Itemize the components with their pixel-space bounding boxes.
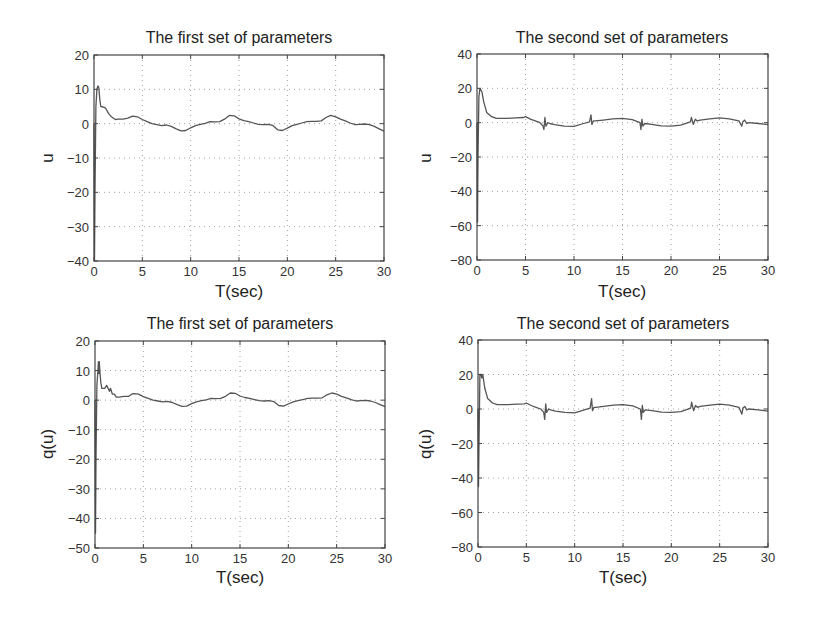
y-tick-label: 20 bbox=[75, 48, 89, 63]
data-series-line bbox=[477, 88, 768, 222]
y-tick-label: −80 bbox=[450, 253, 472, 268]
x-tick-label: 10 bbox=[567, 263, 581, 278]
y-tick-label: −40 bbox=[451, 471, 473, 486]
y-tick-label: −20 bbox=[68, 452, 90, 467]
y-tick-label: −40 bbox=[450, 184, 472, 199]
x-tick-label: 0 bbox=[90, 264, 97, 279]
x-tick-label: 25 bbox=[329, 551, 343, 566]
y-tick-label: −10 bbox=[67, 151, 89, 166]
x-tick-label: 15 bbox=[233, 551, 247, 566]
x-tick-label: 20 bbox=[280, 264, 294, 279]
x-tick-label: 0 bbox=[474, 550, 481, 565]
y-tick-label: −60 bbox=[450, 219, 472, 234]
plot-axes: 051015202530−50−40−30−20−1001020 bbox=[68, 334, 392, 566]
y-axis-label: q(u) bbox=[38, 429, 57, 459]
y-axis-label: q(u) bbox=[416, 429, 435, 459]
x-tick-label: 10 bbox=[183, 264, 197, 279]
y-tick-label: 0 bbox=[465, 116, 472, 131]
x-tick-label: 0 bbox=[91, 551, 98, 566]
x-tick-label: 15 bbox=[616, 550, 630, 565]
x-tick-label: 5 bbox=[522, 263, 529, 278]
y-axis-label: u bbox=[416, 153, 435, 162]
x-axis-label: T(sec) bbox=[599, 568, 647, 587]
subplot-title: The second set of parameters bbox=[516, 29, 729, 46]
plot-axes: 051015202530−80−60−40−2002040 bbox=[451, 333, 775, 565]
subplot-title: The second set of parameters bbox=[517, 315, 730, 332]
y-tick-label: −40 bbox=[68, 511, 90, 526]
x-tick-label: 10 bbox=[567, 550, 581, 565]
y-tick-label: 10 bbox=[76, 364, 90, 379]
subplot-title: The first set of parameters bbox=[147, 315, 334, 332]
x-tick-label: 15 bbox=[615, 263, 629, 278]
y-tick-label: 40 bbox=[458, 47, 472, 62]
y-tick-label: 20 bbox=[459, 368, 473, 383]
x-axis-label: T(sec) bbox=[598, 282, 646, 301]
y-tick-label: −30 bbox=[68, 482, 90, 497]
x-tick-label: 15 bbox=[232, 264, 246, 279]
y-tick-label: 20 bbox=[458, 81, 472, 96]
x-tick-label: 30 bbox=[761, 263, 775, 278]
y-tick-label: −50 bbox=[68, 541, 90, 556]
subplot-title: The first set of parameters bbox=[146, 29, 333, 46]
x-tick-label: 30 bbox=[378, 551, 392, 566]
plot-axes: 051015202530−80−60−40−2002040 bbox=[450, 47, 775, 278]
plot-layer: 051015202530−40−30−20−100102005101520253… bbox=[67, 47, 775, 566]
y-tick-label: 0 bbox=[83, 393, 90, 408]
y-tick-label: −20 bbox=[450, 150, 472, 165]
x-axis-label: T(sec) bbox=[216, 568, 264, 587]
x-tick-label: 25 bbox=[328, 264, 342, 279]
y-tick-label: 0 bbox=[82, 117, 89, 132]
data-series-line bbox=[95, 362, 385, 534]
x-axis-label: T(sec) bbox=[215, 282, 263, 301]
x-tick-label: 20 bbox=[281, 551, 295, 566]
x-tick-label: 10 bbox=[184, 551, 198, 566]
y-tick-label: 20 bbox=[76, 334, 90, 349]
y-tick-label: −10 bbox=[68, 423, 90, 438]
y-tick-label: −60 bbox=[451, 506, 473, 521]
y-tick-label: −80 bbox=[451, 540, 473, 555]
y-tick-label: −40 bbox=[67, 254, 89, 269]
y-tick-label: −20 bbox=[451, 437, 473, 452]
x-tick-label: 30 bbox=[761, 550, 775, 565]
data-series-line bbox=[94, 86, 384, 261]
y-tick-label: −30 bbox=[67, 220, 89, 235]
x-tick-label: 5 bbox=[139, 264, 146, 279]
y-tick-label: 0 bbox=[466, 402, 473, 417]
x-tick-label: 5 bbox=[140, 551, 147, 566]
x-tick-label: 5 bbox=[523, 550, 530, 565]
x-tick-label: 30 bbox=[377, 264, 391, 279]
x-tick-label: 20 bbox=[664, 550, 678, 565]
y-tick-label: 40 bbox=[459, 333, 473, 348]
x-tick-label: 0 bbox=[473, 263, 480, 278]
y-tick-label: 10 bbox=[75, 82, 89, 97]
y-tick-label: −20 bbox=[67, 185, 89, 200]
figure-canvas: The first set of parameters T(sec) u The… bbox=[0, 0, 814, 621]
y-axis-label: u bbox=[38, 153, 57, 162]
x-tick-label: 20 bbox=[664, 263, 678, 278]
plot-axes: 051015202530−40−30−20−1001020 bbox=[67, 48, 391, 279]
x-tick-label: 25 bbox=[712, 550, 726, 565]
x-tick-label: 25 bbox=[712, 263, 726, 278]
